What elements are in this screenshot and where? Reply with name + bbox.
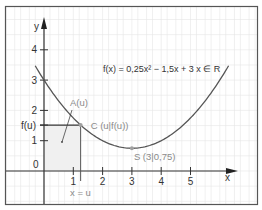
x-tick-label: 5 [188, 176, 194, 187]
x-tick-label: 2 [100, 176, 106, 187]
area-label: A(u) [70, 97, 88, 108]
x-tick-label: 1 [71, 176, 77, 187]
f-u-tick-label: f(u) [21, 120, 36, 131]
vertex-label: S (3|0,75) [134, 151, 176, 162]
function-graph: 12345 1234 f(x) = 0,25x² − 1,5x + 3 x ∈ … [0, 0, 262, 210]
y-tick-label: 4 [31, 44, 37, 55]
x-tick-label: 4 [158, 176, 164, 187]
point-c-label: C (u|f(u)) [91, 120, 129, 131]
function-formula: f(x) = 0,25x² − 1,5x + 3 x ∈ R [103, 64, 221, 74]
y-axis-arrow-icon [41, 17, 47, 29]
x-ticks: 12345 [71, 167, 194, 187]
y-tick-label: 1 [31, 135, 37, 146]
y-axis-label: y [34, 21, 39, 32]
x-tick-label: 3 [129, 176, 135, 187]
x-axis-label: x [225, 172, 230, 183]
y-tick-label: 2 [31, 105, 37, 116]
y-tick-label: 3 [31, 75, 37, 86]
area-pointer-dot [61, 141, 63, 143]
vertex-point-s [130, 146, 134, 150]
origin-label: 0 [33, 159, 39, 170]
x-equals-u-label: x = u [70, 187, 91, 198]
area-shading [44, 125, 81, 171]
point-c [79, 123, 83, 127]
